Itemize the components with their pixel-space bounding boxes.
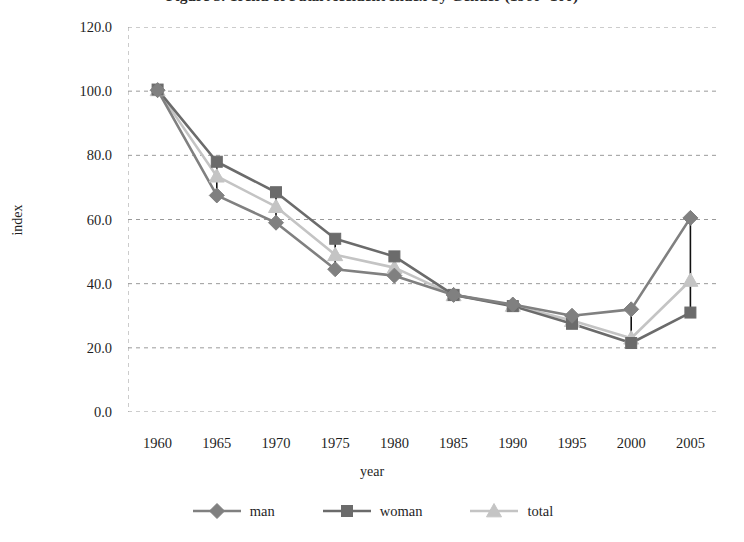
legend-marker-woman bbox=[341, 506, 352, 517]
datapoint-man-2000 bbox=[624, 302, 639, 317]
x-axis-tick-2000: 2000 bbox=[601, 436, 661, 451]
x-axis-tick-1995: 1995 bbox=[542, 436, 602, 451]
chart-legend: manwomantotal bbox=[0, 502, 744, 520]
plot-area bbox=[128, 27, 720, 412]
x-axis-tick-1975: 1975 bbox=[305, 436, 365, 451]
legend-item-woman[interactable]: woman bbox=[321, 502, 423, 520]
datapoint-woman-1965 bbox=[211, 156, 222, 167]
y-axis-tick-100.0: 100.0 bbox=[34, 84, 112, 99]
datapoint-total-2005 bbox=[683, 273, 698, 286]
datapoint-woman-1980 bbox=[389, 251, 400, 262]
legend-swatch-square-icon bbox=[321, 502, 373, 520]
x-axis-tick-1965: 1965 bbox=[187, 436, 247, 451]
y-axis-tick-20.0: 20.0 bbox=[34, 341, 112, 356]
y-axis-label: index bbox=[10, 180, 26, 260]
legend-item-man[interactable]: man bbox=[191, 502, 275, 520]
datapoint-woman-2005 bbox=[685, 307, 696, 318]
markers-total bbox=[150, 82, 698, 344]
line-woman bbox=[158, 90, 691, 343]
chart-figure: Figure 3. Trend of Fatal Accident Index … bbox=[0, 0, 744, 542]
legend-label-total: total bbox=[527, 503, 553, 520]
datapoint-woman-1970 bbox=[271, 187, 282, 198]
y-axis-tick-60.0: 60.0 bbox=[34, 213, 112, 228]
legend-swatch-diamond-icon bbox=[191, 502, 243, 520]
datapoint-man-2005 bbox=[683, 210, 698, 225]
x-axis-tick-1985: 1985 bbox=[424, 436, 484, 451]
datapoint-total-1970 bbox=[269, 199, 284, 212]
x-axis-tick-1980: 1980 bbox=[364, 436, 424, 451]
series-total bbox=[158, 90, 691, 338]
y-axis-tick-120.0: 120.0 bbox=[34, 20, 112, 35]
y-axis-tick-80.0: 80.0 bbox=[34, 148, 112, 163]
x-axis-tick-1970: 1970 bbox=[246, 436, 306, 451]
datapoint-man-1965 bbox=[209, 188, 224, 203]
y-axis-tick-0.0: 0.0 bbox=[34, 405, 112, 420]
x-axis-tick-1990: 1990 bbox=[483, 436, 543, 451]
y-axis-tick-40.0: 40.0 bbox=[34, 277, 112, 292]
datapoint-woman-1975 bbox=[330, 233, 341, 244]
legend-swatch-triangle-icon bbox=[468, 502, 520, 520]
legend-marker-man bbox=[209, 504, 224, 519]
x-axis-label: year bbox=[0, 464, 744, 480]
markers-woman bbox=[152, 84, 696, 348]
legend-label-woman: woman bbox=[380, 503, 423, 520]
chart-title: Figure 3. Trend of Fatal Accident Index … bbox=[0, 0, 744, 5]
plot-svg bbox=[128, 27, 720, 412]
series-woman bbox=[158, 90, 691, 343]
gridlines bbox=[128, 27, 720, 412]
line-total bbox=[158, 90, 691, 338]
legend-item-total[interactable]: total bbox=[468, 502, 553, 520]
x-axis-tick-1960: 1960 bbox=[128, 436, 188, 451]
datapoint-woman-2000 bbox=[626, 338, 637, 349]
man-woman-connectors bbox=[217, 162, 691, 343]
chart-title-clip: Figure 3. Trend of Fatal Accident Index … bbox=[0, 0, 744, 12]
legend-label-man: man bbox=[250, 503, 275, 520]
x-axis-tick-2005: 2005 bbox=[660, 436, 720, 451]
